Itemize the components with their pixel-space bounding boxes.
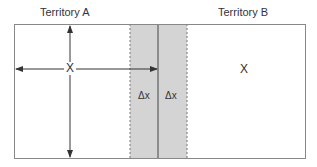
strip-left-label: Δx — [138, 90, 150, 101]
diagram-canvas — [0, 0, 317, 167]
territory-a-marker: X — [66, 62, 74, 75]
strip-right-label: Δx — [165, 90, 177, 101]
territory-b-marker: X — [240, 62, 248, 76]
